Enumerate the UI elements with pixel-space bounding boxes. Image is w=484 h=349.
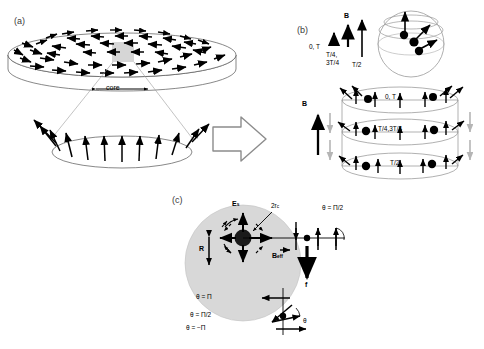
es-subscript: s bbox=[237, 202, 240, 207]
figure-container: (a) bbox=[0, 0, 484, 349]
panel-c-radius-label: R bbox=[199, 245, 204, 252]
beff-subscript: eff bbox=[277, 254, 283, 259]
rc-subscript: c bbox=[277, 204, 279, 209]
panel-c-beff-label: Beff bbox=[272, 252, 283, 260]
panel-c-core-diameter-label: 2rc bbox=[271, 203, 279, 210]
panel-c-graphic bbox=[0, 0, 484, 349]
panel-c-theta-symbol: θ bbox=[303, 318, 307, 325]
panel-c-theta-pi-label: θ = Π bbox=[196, 294, 212, 301]
panel-c-force-label: f bbox=[305, 281, 307, 288]
panel-c-theta-right-label: θ = Π/2 bbox=[322, 205, 343, 212]
panel-c-theta-neg-pi-label: θ = −Π bbox=[186, 325, 206, 332]
panel-c-theta-half-pi-label: θ = Π/2 bbox=[190, 312, 211, 319]
panel-c-es-label: Es bbox=[232, 200, 239, 208]
